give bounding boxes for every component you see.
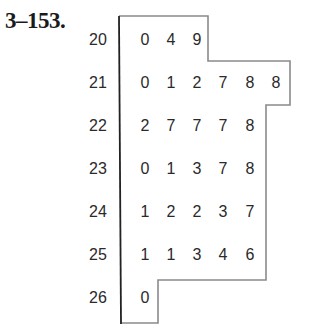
leaf-value: 0 [141,32,150,48]
leaf-value: 4 [167,32,176,48]
leaf-value: 8 [272,75,281,91]
leaf-value: 3 [219,204,228,220]
stem-divider-line [119,16,121,324]
leaf-value: 3 [193,247,202,263]
leaf-value: 2 [167,204,176,220]
leaf-value: 1 [141,204,150,220]
leaf-value: 1 [141,247,150,263]
leaf-value: 8 [246,118,255,134]
leaf-value: 8 [246,161,255,177]
leaf-value: 3 [193,161,202,177]
stem-label: 24 [89,204,107,220]
leaf-value: 4 [219,247,228,263]
leaf-value: 1 [167,161,176,177]
leaf-value: 1 [167,75,176,91]
leaf-value: 2 [193,204,202,220]
leaf-value: 7 [219,75,228,91]
stem-label: 20 [89,32,107,48]
leaf-value: 7 [167,118,176,134]
stem-leaf-frame [0,0,313,336]
leaf-value: 8 [246,75,255,91]
leaf-value: 2 [193,75,202,91]
leaf-value: 2 [141,118,150,134]
stem-label: 22 [89,118,107,134]
stem-label: 23 [89,161,107,177]
leaf-value: 0 [141,161,150,177]
stem-label: 21 [89,75,107,91]
leaf-value: 7 [219,118,228,134]
leaf-value: 6 [246,247,255,263]
stem-label: 26 [89,290,107,306]
leaf-value: 7 [219,161,228,177]
leaf-value: 9 [193,32,202,48]
leaf-value: 1 [167,247,176,263]
leaf-value: 0 [141,290,150,306]
leaf-value: 0 [141,75,150,91]
leaf-value: 7 [193,118,202,134]
leaf-value: 7 [246,204,255,220]
stem-label: 25 [89,247,107,263]
